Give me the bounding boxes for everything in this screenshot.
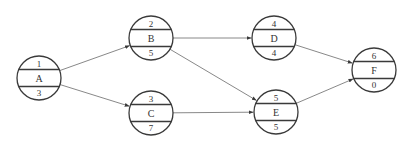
node-label: F xyxy=(371,65,377,76)
node-b: 2B5 xyxy=(129,16,173,60)
nodes-layer: 1A32B53C74D45E56F0 xyxy=(17,16,396,135)
edge-c-to-e xyxy=(173,112,254,113)
node-bottom-value: 4 xyxy=(272,48,277,58)
activity-network-diagram: 1A32B53C74D45E56F0 xyxy=(0,0,409,148)
node-label: D xyxy=(270,33,277,44)
node-bottom-value: 5 xyxy=(274,122,279,132)
edge-d-to-f xyxy=(295,45,353,63)
node-bottom-value: 7 xyxy=(149,123,154,133)
node-a: 1A3 xyxy=(17,56,61,100)
edges-layer xyxy=(60,38,354,113)
node-top-value: 3 xyxy=(149,94,154,104)
node-top-value: 6 xyxy=(372,51,377,61)
edge-e-to-f xyxy=(296,79,353,103)
node-top-value: 5 xyxy=(274,93,279,103)
edge-b-to-e xyxy=(170,49,257,100)
node-c: 3C7 xyxy=(129,91,173,135)
node-e: 5E5 xyxy=(254,90,298,134)
node-top-value: 1 xyxy=(37,59,42,69)
node-label: C xyxy=(148,108,155,119)
node-label: A xyxy=(35,73,43,84)
node-top-value: 4 xyxy=(272,19,277,29)
node-d: 4D4 xyxy=(252,16,296,60)
node-f: 6F0 xyxy=(352,48,396,92)
node-label: B xyxy=(148,33,155,44)
node-top-value: 2 xyxy=(149,19,154,29)
node-label: E xyxy=(273,107,279,118)
node-bottom-value: 0 xyxy=(372,80,377,90)
edge-a-to-b xyxy=(60,46,130,71)
node-bottom-value: 3 xyxy=(37,88,42,98)
node-bottom-value: 5 xyxy=(149,48,154,58)
edge-a-to-c xyxy=(60,85,130,107)
